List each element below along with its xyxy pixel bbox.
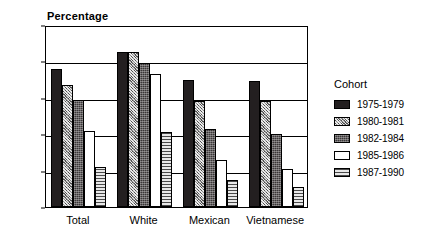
bar (139, 63, 150, 207)
bar (293, 187, 304, 207)
bar-group (46, 27, 112, 207)
bar (161, 132, 172, 207)
legend-swatch (334, 151, 350, 160)
legend-label: 1980-1981 (357, 116, 404, 127)
legend-label: 1987-1990 (357, 167, 404, 178)
y-axis-title: Percentage (47, 10, 108, 22)
bar (51, 69, 62, 207)
legend-item: 1982-1984 (334, 130, 420, 146)
bar (128, 52, 139, 207)
bar (260, 101, 271, 207)
bar (150, 74, 161, 207)
legend-items: 1975-19791980-19811982-19841985-19861987… (334, 96, 420, 180)
bar (216, 160, 227, 207)
y-axis: 020406080100 (0, 0, 45, 244)
bar (249, 81, 260, 207)
bars-layer (46, 27, 307, 207)
bar (271, 134, 282, 207)
bar-group (243, 27, 309, 207)
legend-label: 1982-1984 (357, 133, 404, 144)
x-tick-label: Vietnamese (246, 214, 304, 226)
legend-title: Cohort (334, 78, 420, 90)
bar (205, 129, 216, 207)
bar-chart: Percentage 020406080100 Cohort 1975-1979… (0, 0, 421, 244)
bar (73, 100, 84, 207)
legend-swatch (334, 134, 350, 143)
legend-swatch (334, 100, 350, 109)
bar (84, 131, 95, 207)
plot-area (45, 26, 308, 208)
legend-label: 1975-1979 (357, 99, 404, 110)
x-tick-label: Total (66, 214, 89, 226)
legend-item: 1985-1986 (334, 147, 420, 163)
legend: Cohort 1975-19791980-19811982-19841985-1… (334, 78, 420, 181)
legend-item: 1975-1979 (334, 96, 420, 112)
legend-label: 1985-1986 (357, 150, 404, 161)
bar (194, 101, 205, 207)
legend-swatch (334, 117, 350, 126)
bar (183, 80, 194, 207)
bar-group (112, 27, 178, 207)
bar (282, 169, 293, 207)
legend-item: 1987-1990 (334, 164, 420, 180)
bar (62, 85, 73, 207)
bar-group (178, 27, 244, 207)
bar (95, 167, 106, 207)
bar (117, 52, 128, 207)
x-tick-label: Mexican (189, 214, 230, 226)
legend-item: 1980-1981 (334, 113, 420, 129)
legend-swatch (334, 168, 350, 177)
bar (227, 180, 238, 207)
x-tick-label: White (130, 214, 158, 226)
